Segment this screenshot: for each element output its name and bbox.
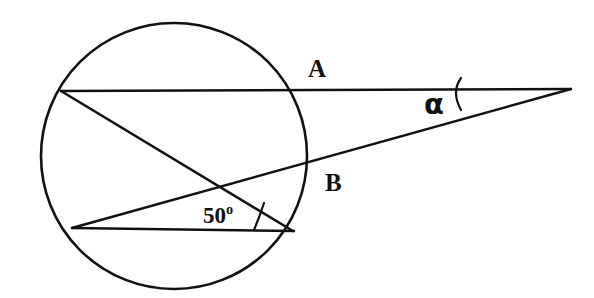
upper-secant-line xyxy=(61,89,571,91)
angle-label-50-degrees: 50o xyxy=(203,202,233,227)
circle-outline xyxy=(41,23,307,289)
point-label-a: A xyxy=(308,56,326,81)
diagonal-chord-line xyxy=(61,91,293,231)
angle-value-number: 50 xyxy=(203,203,226,228)
angle-arc-alpha-icon xyxy=(456,78,461,110)
angle-label-alpha: α xyxy=(424,90,444,119)
geometry-canvas xyxy=(0,0,594,298)
point-label-b: B xyxy=(325,170,342,195)
bottom-chord-line xyxy=(72,228,294,231)
geometry-figure: A B α 50o xyxy=(0,0,594,298)
degree-symbol: o xyxy=(226,201,233,217)
lower-secant-line xyxy=(72,89,571,228)
